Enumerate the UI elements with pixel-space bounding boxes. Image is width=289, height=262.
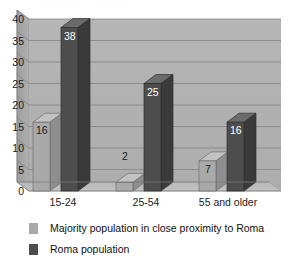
data-label-15-24-roma: 38 xyxy=(64,31,76,42)
chart-legend: Majority population in close proximity t… xyxy=(0,216,289,262)
data-label-25-54-roma: 25 xyxy=(147,87,159,98)
x-axis-labels: 15-24 25-54 55 and older xyxy=(0,196,289,212)
y-tick-label: 0 xyxy=(0,186,24,196)
legend-item-majority-population: Majority population in close proximity t… xyxy=(29,221,264,235)
y-tick-label: 40 xyxy=(0,14,24,24)
plot-area xyxy=(0,8,289,194)
y-tick-label: 25 xyxy=(0,79,24,89)
legend-label-majority-population: Majority population in close proximity t… xyxy=(50,222,264,234)
y-tick-label: 20 xyxy=(0,100,24,110)
bar-chart: · · · · · · · · · · xyxy=(0,0,289,262)
legend-label-roma-population: Roma population xyxy=(50,243,129,255)
y-tick-label: 35 xyxy=(0,36,24,46)
legend-swatch-majority-population xyxy=(29,223,38,234)
x-tick-label-15-24: 15-24 xyxy=(33,196,93,208)
y-tick-label: 30 xyxy=(0,57,24,67)
bar-55-older-majority xyxy=(199,152,228,191)
y-tick-label: 5 xyxy=(0,165,24,175)
y-axis-labels: 40 35 30 25 20 15 10 5 0 xyxy=(0,8,24,194)
data-label-55-older-roma: 16 xyxy=(230,125,242,136)
plot-svg xyxy=(0,8,289,194)
data-label-25-54-majority: 2 xyxy=(122,151,128,162)
legend-item-roma-population: Roma population xyxy=(29,242,129,256)
y-tick-label: 10 xyxy=(0,143,24,153)
cropped-title-remnant: · · · · · · · · · · xyxy=(40,0,250,4)
x-tick-label-55-and-older: 55 and older xyxy=(189,196,267,208)
y-tick-label: 15 xyxy=(0,122,24,132)
data-label-15-24-majority: 16 xyxy=(36,125,48,136)
legend-swatch-roma-population xyxy=(29,244,38,255)
x-tick-label-25-54: 25-54 xyxy=(116,196,176,208)
bar-15-24-roma xyxy=(61,19,90,191)
data-label-55-older-majority: 7 xyxy=(205,164,211,175)
